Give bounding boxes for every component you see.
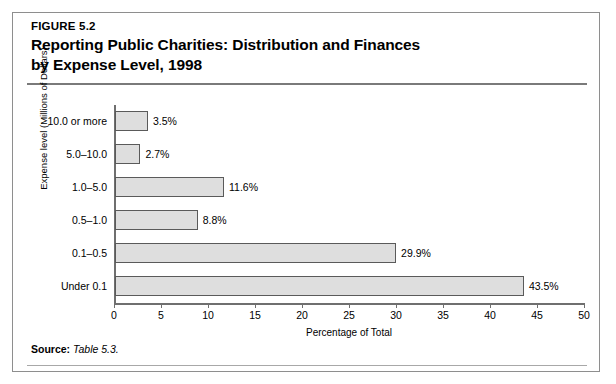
bar-row: 10.0 or more3.5%: [114, 105, 584, 138]
x-axis-tick-label: 15: [240, 309, 270, 321]
x-axis-tick-label: 35: [428, 309, 458, 321]
x-axis-tick-label: 40: [475, 309, 505, 321]
category-label: 1.0–5.0: [0, 171, 114, 204]
x-axis-tick: [114, 303, 115, 308]
x-axis-tick-label: 20: [287, 309, 317, 321]
bar-chart: Expense level (Millions of Dollars) 10.0…: [13, 13, 601, 373]
x-axis-tick-label: 50: [569, 309, 599, 321]
category-label: 0.5–1.0: [0, 204, 114, 237]
category-label: Under 0.1: [0, 270, 114, 303]
x-axis-tick: [396, 303, 397, 308]
bar-value-label: 11.6%: [223, 177, 258, 197]
bar: [115, 243, 396, 263]
category-label: 0.1–0.5: [0, 237, 114, 270]
bar: [115, 144, 140, 164]
x-axis-tick: [161, 303, 162, 308]
bar-value-label: 2.7%: [139, 144, 169, 164]
bottom-divider-rule: [27, 365, 587, 366]
bar-row: 0.1–0.529.9%: [114, 237, 584, 270]
bar: [115, 177, 224, 197]
bar-row: 5.0–10.02.7%: [114, 138, 584, 171]
bar: [115, 210, 198, 230]
x-axis-tick: [302, 303, 303, 308]
bar-row: Under 0.143.5%: [114, 270, 584, 303]
bar: [115, 111, 148, 131]
x-axis-tick-label: 25: [334, 309, 364, 321]
plot-area: 10.0 or more3.5%5.0–10.02.7%1.0–5.011.6%…: [114, 105, 584, 303]
x-axis-tick: [349, 303, 350, 308]
x-axis-tick-label: 45: [522, 309, 552, 321]
source-note: Source: Table 5.3.: [31, 343, 119, 355]
x-axis-title: Percentage of Total: [114, 327, 584, 338]
category-label: 5.0–10.0: [0, 138, 114, 171]
bar-row: 1.0–5.011.6%: [114, 171, 584, 204]
source-reference: Table 5.3.: [73, 343, 119, 355]
bar-value-label: 43.5%: [523, 276, 559, 296]
x-axis-tick: [584, 303, 585, 308]
category-label: 10.0 or more: [0, 105, 114, 138]
x-axis-tick-label: 0: [99, 309, 129, 321]
x-axis-tick: [537, 303, 538, 308]
x-axis-tick-label: 30: [381, 309, 411, 321]
x-axis-tick-label: 10: [193, 309, 223, 321]
bar: [115, 276, 524, 296]
x-axis-tick: [255, 303, 256, 308]
x-axis-tick: [208, 303, 209, 308]
x-axis-tick-label: 5: [146, 309, 176, 321]
x-axis-tick: [490, 303, 491, 308]
source-label: Source:: [31, 343, 70, 355]
bar-row: 0.5–1.08.8%: [114, 204, 584, 237]
bar-value-label: 29.9%: [395, 243, 431, 263]
figure-container: FIGURE 5.2 Reporting Public Charities: D…: [12, 12, 600, 372]
bar-value-label: 3.5%: [147, 111, 177, 131]
bar-value-label: 8.8%: [197, 210, 227, 230]
x-axis-tick: [443, 303, 444, 308]
